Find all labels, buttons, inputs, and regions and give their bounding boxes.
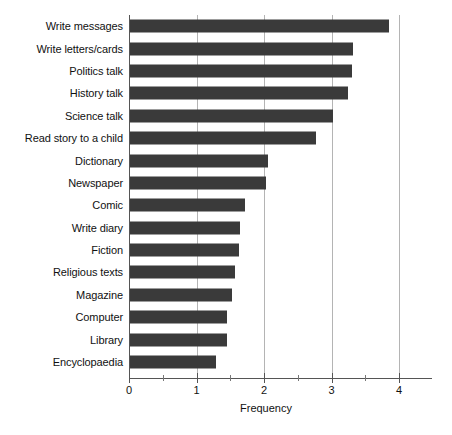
bar xyxy=(130,221,240,234)
bar xyxy=(130,87,348,100)
bar-row: Fiction xyxy=(0,239,452,261)
bar xyxy=(130,266,235,279)
category-label: Library xyxy=(90,334,123,346)
bar xyxy=(130,132,316,145)
x-tick-label: 3 xyxy=(328,384,334,397)
x-axis-title: Frequency xyxy=(0,402,452,414)
bar xyxy=(130,199,245,212)
bar xyxy=(130,109,333,122)
category-label: Magazine xyxy=(76,289,123,301)
category-label: Science talk xyxy=(65,110,123,122)
bar xyxy=(130,20,389,33)
x-tick-label: 0 xyxy=(126,384,132,397)
x-tick-minor xyxy=(365,375,366,381)
x-tick-major xyxy=(197,373,198,383)
bar-row: Magazine xyxy=(0,284,452,306)
category-label: Religious texts xyxy=(53,266,123,278)
frequency-bar-chart: Write messagesWrite letters/cardsPolitic… xyxy=(0,0,452,435)
bar xyxy=(130,356,216,369)
category-label: Computer xyxy=(76,311,124,323)
x-tick-minor xyxy=(163,375,164,381)
category-label: Newspaper xyxy=(68,177,123,189)
x-tick-minor xyxy=(230,375,231,381)
bar-row: Comic xyxy=(0,194,452,216)
bar xyxy=(130,244,239,257)
category-label: Dictionary xyxy=(75,155,123,167)
category-label: Read story to a child xyxy=(25,132,123,144)
bar xyxy=(130,64,352,77)
y-axis-line xyxy=(129,15,130,378)
category-label: Write diary xyxy=(72,222,123,234)
bar-row: Write diary xyxy=(0,217,452,239)
x-tick-major xyxy=(129,373,130,383)
bar-row: Newspaper xyxy=(0,172,452,194)
bar-row: Encyclopaedia xyxy=(0,351,452,373)
bar-row: Library xyxy=(0,328,452,350)
bar-row: History talk xyxy=(0,82,452,104)
bar xyxy=(130,288,232,301)
x-tick-label: 4 xyxy=(396,384,402,397)
bar-row: Computer xyxy=(0,306,452,328)
category-label: Encyclopaedia xyxy=(53,356,123,368)
bar xyxy=(130,176,266,189)
x-tick-major xyxy=(332,373,333,383)
bar xyxy=(130,311,227,324)
category-label: Write messages xyxy=(46,20,123,32)
bar xyxy=(130,333,227,346)
x-axis-line xyxy=(129,378,432,379)
category-label: Politics talk xyxy=(69,65,123,77)
x-axis-title-text: Frequency xyxy=(240,402,292,414)
bar-row: Politics talk xyxy=(0,60,452,82)
category-label: Comic xyxy=(92,199,123,211)
bar-row: Religious texts xyxy=(0,261,452,283)
bar-rows: Write messagesWrite letters/cardsPolitic… xyxy=(0,15,452,373)
category-label: Fiction xyxy=(91,244,123,256)
category-label: History talk xyxy=(70,87,123,99)
bar-row: Write letters/cards xyxy=(0,37,452,59)
bar-row: Science talk xyxy=(0,105,452,127)
bar xyxy=(130,154,268,167)
x-tick-label: 2 xyxy=(261,384,267,397)
x-tick-minor xyxy=(298,375,299,381)
x-tick-major xyxy=(264,373,265,383)
x-tick-label: 1 xyxy=(193,384,199,397)
category-label: Write letters/cards xyxy=(36,43,123,55)
x-tick-major xyxy=(399,373,400,383)
bar xyxy=(130,42,353,55)
bar-row: Dictionary xyxy=(0,149,452,171)
bar-row: Read story to a child xyxy=(0,127,452,149)
bar-row: Write messages xyxy=(0,15,452,37)
